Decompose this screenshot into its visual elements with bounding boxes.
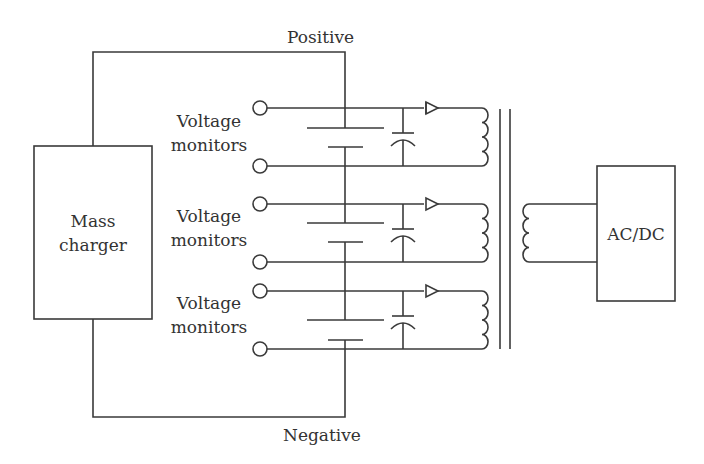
primary-coil-icon [523,204,597,262]
secondary-coil-icon [482,108,488,166]
battery-charging-circuit-diagram: Positive Negative Mass charger Voltage m… [0,0,704,464]
positive-bus-wire [93,52,345,146]
monitor-terminal-icon [253,101,267,115]
voltage-monitors-label-3-line1: Voltage [176,293,241,313]
monitor-terminal-icon [253,197,267,211]
voltage-monitors-label-3-line2: monitors [171,317,248,337]
diode-icon [426,198,482,210]
secondary-coil-icon [482,204,488,262]
voltage-monitors-label-2-line1: Voltage [176,206,241,226]
acdc-label: AC/DC [606,224,665,244]
cell-stage-1: Voltage monitors [171,101,488,173]
negative-label: Negative [283,425,361,445]
cell-stage-2: Voltage monitors [171,166,488,291]
voltage-monitors-label-1-line1: Voltage [176,111,241,131]
diode-icon [426,102,482,114]
monitor-terminal-icon [253,284,267,298]
mass-charger-label-line2: charger [59,235,128,255]
secondary-coil-icon [482,291,488,349]
mass-charger-label-line1: Mass [71,211,116,231]
capacitor-icon [391,108,415,166]
monitor-terminal-icon [253,342,267,356]
positive-label: Positive [287,27,354,47]
voltage-monitors-label-1-line2: monitors [171,135,248,155]
voltage-monitors-label-2-line2: monitors [171,230,248,250]
monitor-terminal-icon [253,255,267,269]
capacitor-icon [391,291,415,349]
acdc-converter-block: AC/DC [597,166,675,301]
diode-icon [426,285,482,297]
transformer-core [500,109,510,349]
mass-charger-block: Mass charger [34,146,152,319]
cell-stage-3: Voltage monitors [171,284,488,356]
capacitor-icon [391,204,415,262]
monitor-terminal-icon [253,159,267,173]
